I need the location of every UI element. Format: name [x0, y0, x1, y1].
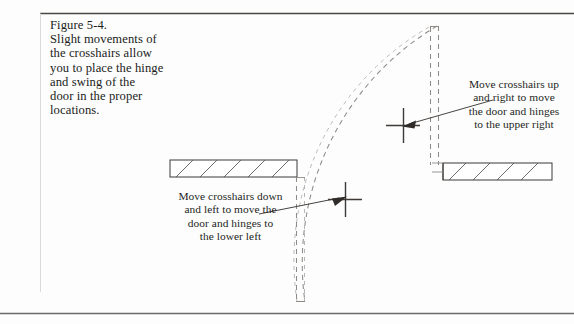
figure-caption: Figure 5-4. Slight movements of the cros…	[50, 18, 200, 118]
annotation-lower-left: Move crosshairs down and left to move th…	[163, 190, 298, 243]
figure-caption-line: and swing of the	[50, 75, 200, 89]
annotation-line: Move crosshairs up	[455, 78, 573, 91]
figure-page: Figure 5-4. Slight movements of the cros…	[0, 0, 574, 324]
left-wall	[170, 160, 297, 177]
figure-caption-line: Figure 5-4.	[50, 18, 200, 32]
annotation-line: door and hinges to	[163, 217, 298, 230]
figure-caption-line: door in the proper	[50, 89, 200, 103]
annotation-line: the lower left	[163, 230, 298, 243]
annotation-upper-right: Move crosshairs up and right to move the…	[455, 78, 573, 131]
door-leaf-right	[430, 26, 439, 165]
annotation-line: and right to move	[455, 91, 573, 104]
figure-caption-line: locations.	[50, 103, 200, 117]
right-wall	[432, 163, 552, 180]
annotation-line: to the upper right	[455, 118, 573, 131]
figure-caption-line: Slight movements of	[50, 32, 200, 46]
annotation-line: Move crosshairs down	[163, 190, 298, 203]
figure-caption-line: the crosshairs allow	[50, 46, 200, 60]
annotation-line: the door and hinges	[455, 105, 573, 118]
annotation-line: and left to move the	[163, 203, 298, 216]
door-swing-arc	[302, 26, 437, 302]
figure-caption-line: you to place the hinge	[50, 61, 200, 75]
left-wall-body	[170, 160, 297, 177]
door-swing-arc-ghost	[294, 27, 429, 301]
